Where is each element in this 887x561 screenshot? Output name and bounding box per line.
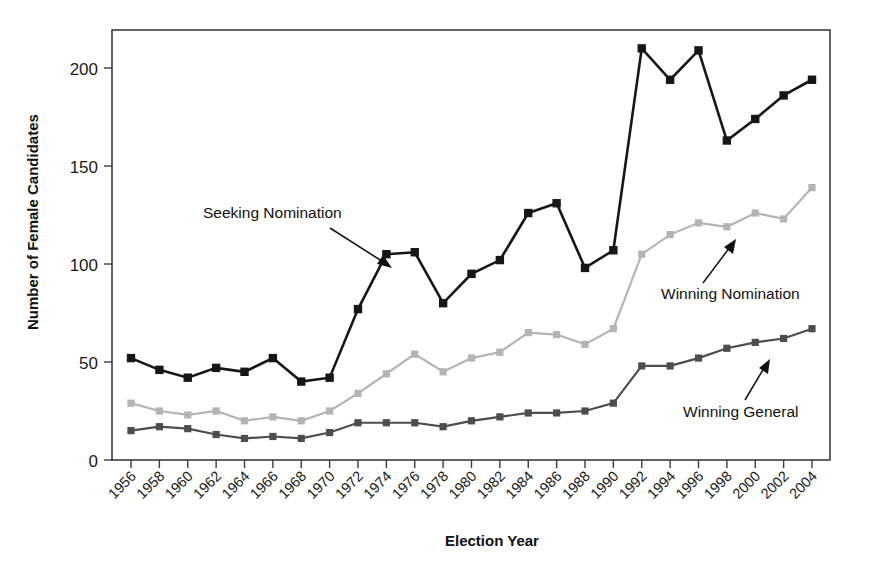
data-point-marker [156,423,163,430]
data-point-marker [496,256,504,264]
data-point-marker [354,390,361,397]
data-point-marker [269,354,277,362]
x-axis-ticks [131,460,812,468]
data-point-marker [241,417,248,424]
y-tick-label: 200 [70,60,98,79]
data-point-marker [354,419,361,426]
x-tick-label: 2002 [758,468,792,502]
data-point-marker [127,354,135,362]
data-point-marker [808,325,815,332]
x-tick-label: 1964 [218,468,252,502]
annotation-label: Winning General [683,403,798,420]
data-point-marker [468,417,475,424]
series-line [131,188,812,421]
annotation-arrow-head [759,359,770,374]
x-tick-label: 1978 [417,468,451,502]
data-point-marker [240,368,248,376]
data-point-marker [524,209,532,217]
data-point-marker [610,400,617,407]
data-point-marker [383,419,390,426]
data-point-marker [241,435,248,442]
data-point-marker [525,409,532,416]
data-point-marker [667,231,674,238]
data-point-marker [667,362,674,369]
data-point-marker [468,354,475,361]
data-point-marker [751,115,759,123]
x-tick-label: 1994 [644,468,678,502]
data-point-marker [212,364,220,372]
y-tick-label: 50 [79,354,98,373]
data-point-marker [780,335,787,342]
x-tick-label: 2000 [729,468,763,502]
data-point-marker [325,373,333,381]
data-point-marker [552,199,560,207]
data-point-marker [383,370,390,377]
data-point-marker [723,345,730,352]
data-point-marker [269,433,276,440]
x-tick-label: 1974 [360,468,394,502]
data-point-marker [525,329,532,336]
data-point-marker [127,400,134,407]
x-tick-label: 1976 [389,468,423,502]
data-point-marker [638,44,646,52]
data-point-marker [411,419,418,426]
x-tick-label: 1988 [559,468,593,502]
line-chart: 200 150 100 50 0 Number of Female Candid… [0,0,887,561]
data-point-marker [695,219,702,226]
chart-figure: 200 150 100 50 0 Number of Female Candid… [0,0,887,561]
y-tick-label: 150 [70,158,98,177]
data-point-marker [298,435,305,442]
data-point-marker [638,362,645,369]
data-point-marker [553,409,560,416]
data-point-marker [156,407,163,414]
data-point-marker [467,270,475,278]
x-axis-title: Election Year [445,532,539,549]
x-tick-label: 1990 [587,468,621,502]
y-axis-ticks [104,68,112,460]
x-tick-label: 1966 [247,468,281,502]
x-tick-label: 1960 [162,468,196,502]
x-tick-label: 1984 [502,468,536,502]
data-point-marker [581,341,588,348]
data-point-marker [213,407,220,414]
data-point-marker [326,429,333,436]
annotation-label: Seeking Nomination [203,204,342,221]
data-point-marker [779,91,787,99]
x-tick-label: 1962 [190,468,224,502]
x-tick-label: 1998 [701,468,735,502]
data-point-marker [440,368,447,375]
data-point-marker [155,366,163,374]
data-point-marker [808,184,815,191]
y-tick-label: 100 [70,256,98,275]
data-point-marker [553,331,560,338]
data-point-marker [610,325,617,332]
plot-frame [112,30,830,460]
data-point-marker [269,413,276,420]
data-point-marker [694,46,702,54]
x-tick-label: 1972 [332,468,366,502]
x-tick-label: 1982 [474,468,508,502]
data-point-marker [581,264,589,272]
data-point-marker [496,413,503,420]
x-tick-label: 1996 [672,468,706,502]
annotation-winning-nomination: Winning Nomination [661,239,800,302]
y-axis-title: Number of Female Candidates [24,114,41,330]
data-point-marker [127,427,134,434]
x-tick-label: 1986 [531,468,565,502]
data-point-marker [440,423,447,430]
data-point-marker [496,349,503,356]
data-point-marker [184,425,191,432]
x-axis-tick-labels: 1956195819601962196419661968197019721974… [105,468,820,502]
data-point-marker [213,431,220,438]
data-point-marker [638,251,645,258]
data-point-marker [780,215,787,222]
data-point-marker [184,373,192,381]
data-point-marker [808,76,816,84]
data-point-marker [184,411,191,418]
data-point-marker [439,299,447,307]
data-point-marker [354,305,362,313]
x-tick-label: 1956 [105,468,139,502]
annotation-seeking-nomination: Seeking Nomination [203,204,392,268]
annotation-arrow-line [330,228,388,265]
series-winning-general [127,325,815,442]
